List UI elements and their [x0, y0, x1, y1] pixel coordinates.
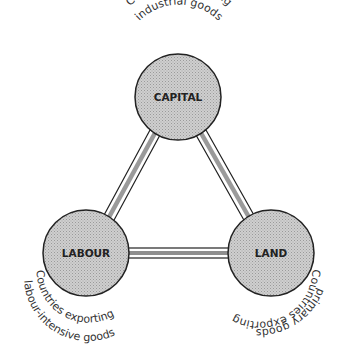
- node-capital: CAPITAL: [135, 54, 221, 140]
- node-land: LAND: [228, 210, 314, 296]
- edge-capital-labour: [103, 130, 160, 222]
- caption-capital-line2: industrial goods: [132, 0, 225, 23]
- node-labour: LABOUR: [43, 210, 129, 296]
- node-label-capital: CAPITAL: [154, 91, 203, 103]
- node-label-labour: LABOUR: [62, 247, 110, 259]
- edge-labour-land: [128, 248, 230, 258]
- factor-triangle-diagram: CAPITAL LABOUR LAND Countries exporting …: [0, 0, 353, 359]
- node-label-land: LAND: [255, 247, 288, 259]
- edge-capital-land: [196, 130, 255, 222]
